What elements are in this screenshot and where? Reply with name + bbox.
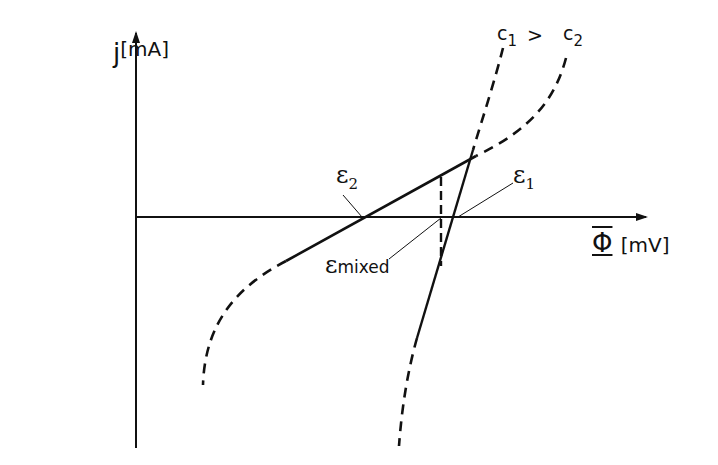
eps-mixed-label: εmixed [325,253,390,277]
eps2-label: ε2 [336,163,358,187]
curve-c2 [203,58,566,385]
curve-c1-label: c1 [497,24,517,43]
curve-c2-label: c2 [563,24,583,43]
c2-symbol: c [563,22,573,44]
x-axis-symbol: Φ [592,228,612,258]
c1-symbol: c [497,22,507,44]
diagram-canvas: j[mA] Φ [mV] c1 > c2 ε2 ε1 εmixed [0,0,718,465]
curve-relation: > [527,26,543,45]
y-axis-unit: [mA] [120,37,169,61]
c1-subscript: 1 [507,32,517,50]
curve-c1 [399,48,503,446]
eps-mixed-symbol: ε [325,251,337,279]
eps1-label: ε1 [513,163,535,187]
x-axis-label: Φ [mV] [592,230,670,256]
eps-mixed-leader [389,218,441,259]
eps2-leader [343,195,362,217]
eps1-leader [458,183,513,217]
eps-mixed-subscript: mixed [337,257,389,277]
y-axis-label: j[mA] [113,40,169,66]
c2-subscript: 2 [573,32,583,50]
eps2-symbol: ε [336,161,348,189]
x-axis-unit: [mV] [621,233,670,257]
eps2-subscript: 2 [348,175,358,193]
eps1-subscript: 1 [525,175,535,193]
eps1-symbol: ε [513,161,525,189]
